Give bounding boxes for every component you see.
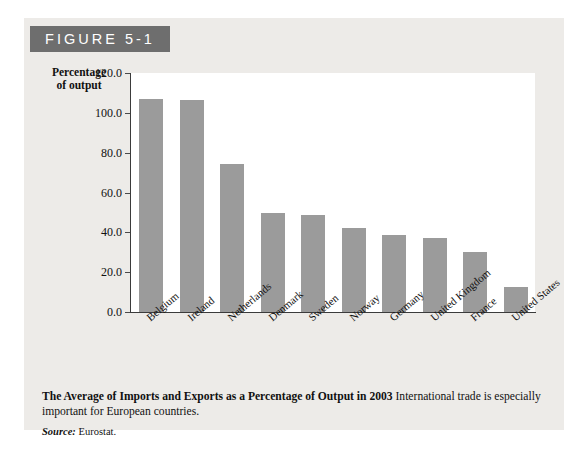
bar	[342, 228, 366, 312]
bar	[301, 215, 325, 312]
y-tick-label: 100.0	[78, 105, 122, 120]
y-tick-label: 20.0	[78, 265, 122, 280]
bar	[261, 213, 285, 312]
bar	[139, 99, 163, 312]
y-tick-label: 60.0	[78, 185, 122, 200]
bar	[220, 164, 244, 312]
y-tick-label: 120.0	[78, 66, 122, 81]
bar-chart: Percentage of output 120.0100.080.060.04…	[24, 18, 564, 430]
source-label: Source:	[42, 426, 76, 437]
caption-source: Source: Eurostat.	[42, 426, 552, 437]
caption-sentence: The Average of Imports and Exports as a …	[42, 390, 552, 419]
y-tick-label: 40.0	[78, 225, 122, 240]
x-axis-labels: BelgiumIrelandNetherlandsDenmarkSwedenNo…	[131, 314, 551, 394]
y-axis-title-line-2: of output	[40, 79, 118, 92]
caption-title: The Average of Imports and Exports as a …	[42, 390, 393, 403]
bar	[180, 100, 204, 312]
figure-panel: FIGURE 5-1 Percentage of output 120.0100…	[24, 18, 564, 430]
y-tick-label: 0.0	[78, 305, 122, 320]
figure-caption: The Average of Imports and Exports as a …	[42, 390, 552, 437]
source-value: Eurostat.	[76, 426, 116, 437]
y-tick-label: 80.0	[78, 145, 122, 160]
